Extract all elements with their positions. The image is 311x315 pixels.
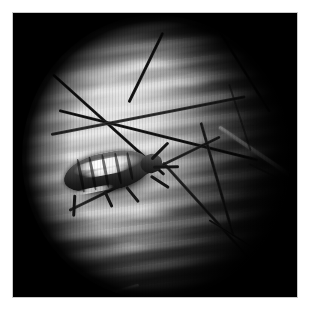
dermoscope-field-of-view bbox=[22, 15, 290, 297]
capture-scanline-texture bbox=[22, 15, 290, 297]
dermoscopy-figure: Grayscale dermoscopic close-up of a para… bbox=[0, 0, 311, 315]
image-plate bbox=[13, 13, 297, 297]
